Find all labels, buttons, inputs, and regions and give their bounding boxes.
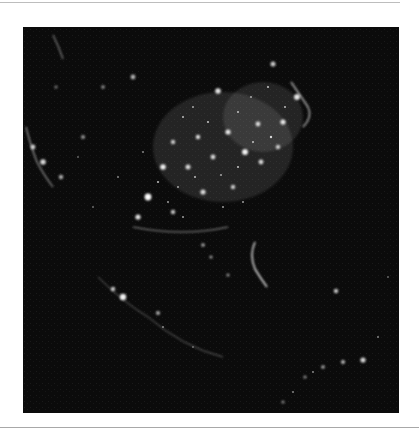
top-rule	[0, 2, 400, 3]
night-lights-canvas	[23, 27, 399, 413]
city-light	[120, 294, 126, 300]
city-light	[135, 214, 140, 219]
city-light	[160, 164, 166, 170]
city-light	[303, 375, 306, 378]
city-light	[334, 289, 338, 293]
city-light	[271, 62, 276, 67]
city-light	[40, 159, 46, 165]
city-light	[81, 135, 85, 139]
city-light	[200, 189, 205, 194]
city-light	[280, 119, 285, 124]
city-light	[321, 365, 325, 369]
city-light	[145, 194, 152, 201]
city-light	[111, 287, 115, 291]
city-light	[186, 165, 191, 170]
city-light	[259, 160, 264, 165]
night-lights-satellite-image	[23, 27, 399, 413]
city-light	[59, 175, 63, 179]
city-light	[231, 185, 235, 189]
city-light	[242, 149, 248, 155]
city-light	[276, 145, 280, 149]
city-light	[226, 273, 229, 276]
city-light	[31, 145, 36, 150]
city-light	[156, 311, 160, 315]
city-light	[131, 75, 136, 80]
city-light	[281, 400, 284, 403]
city-light	[341, 360, 345, 364]
city-light	[201, 243, 205, 247]
city-light	[294, 94, 300, 100]
dark-background	[23, 27, 399, 413]
city-light	[54, 85, 57, 88]
city-light	[256, 122, 261, 127]
city-light	[171, 210, 175, 214]
city-light	[360, 357, 365, 362]
city-light	[209, 255, 212, 258]
city-light	[215, 88, 221, 94]
city-light	[211, 155, 216, 160]
city-light	[101, 85, 105, 89]
city-light	[225, 129, 230, 134]
city-light	[171, 140, 175, 144]
city-light	[196, 135, 200, 139]
bottom-rule	[0, 427, 419, 428]
